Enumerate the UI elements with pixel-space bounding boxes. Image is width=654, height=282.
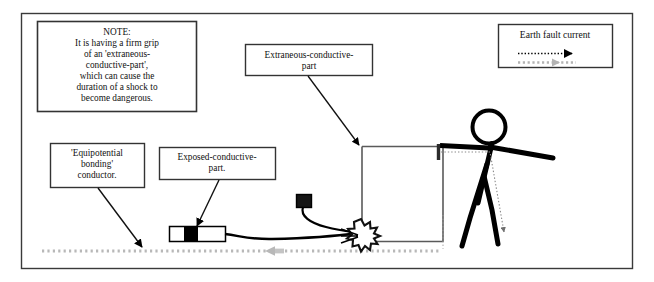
legend-title: Earth fault current	[503, 29, 607, 40]
note-box-text: NOTE: It is having a firm grip of an 'ex…	[44, 27, 190, 104]
diagram-canvas: NOTE: It is having a firm grip of an 'ex…	[0, 0, 654, 282]
person-left-arm	[440, 146, 489, 149]
plug-block	[297, 195, 312, 208]
bonding-conductor-arrow-tail-icon	[275, 249, 284, 254]
callout-label-exposed-conductive-part: Exposed-conductive- part.	[162, 152, 272, 174]
callout-label-equipotential-bonding-conductor: 'Equipotential bonding' conductor.	[54, 148, 140, 181]
appliance-metal-casing	[184, 227, 198, 241]
callout-label-extraneous-conductive-part: Extraneous-conductive- part	[250, 50, 368, 72]
person-head	[473, 111, 506, 144]
